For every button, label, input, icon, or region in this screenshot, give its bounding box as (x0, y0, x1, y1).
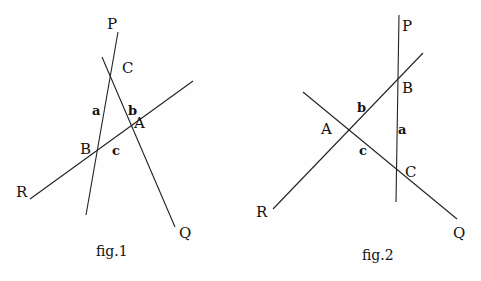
fig1-label-c: C (122, 59, 133, 77)
fig2-side-a: a (398, 122, 407, 137)
fig2-line-q (303, 92, 457, 219)
figure-1: P C a b A B c R Q fig.1 (16, 15, 193, 259)
fig1-side-a: a (92, 103, 101, 118)
fig2-label-c: C (405, 163, 416, 181)
fig2-side-c: c (359, 143, 367, 158)
diagram-svg: P C a b A B c R Q fig.1 P B b A a c C R … (0, 0, 481, 281)
fig1-label-p: P (107, 15, 117, 33)
fig1-side-c: c (112, 143, 120, 158)
fig2-label-q: Q (453, 224, 465, 242)
fig1-line-r (30, 81, 193, 199)
fig2-label-r: R (256, 203, 268, 221)
fig2-side-b: b (357, 100, 366, 115)
fig1-caption: fig.1 (96, 243, 128, 259)
fig2-caption: fig.2 (362, 247, 394, 263)
fig1-label-a: A (133, 114, 145, 132)
figure-2: P B b A a c C R Q fig.2 (256, 15, 465, 263)
fig2-label-p: P (402, 17, 412, 35)
fig2-line-p (396, 15, 399, 202)
diagram-canvas: P C a b A B c R Q fig.1 P B b A a c C R … (0, 0, 481, 281)
fig1-line-q (102, 57, 175, 227)
fig1-label-b: B (80, 140, 91, 158)
fig1-line-p (86, 32, 118, 215)
fig1-label-r: R (16, 183, 28, 201)
fig1-label-q: Q (179, 224, 191, 242)
fig2-label-a: A (320, 120, 332, 138)
fig2-label-b: B (402, 79, 413, 97)
